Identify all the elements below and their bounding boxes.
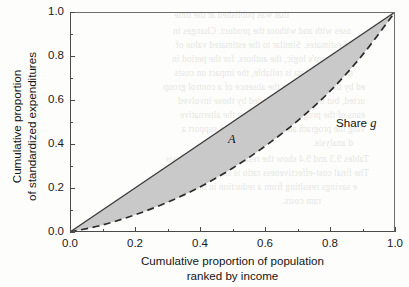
y-tick-major xyxy=(70,100,75,101)
x-tick-label: 0.6 xyxy=(245,237,285,249)
x-tick-minor xyxy=(298,229,299,232)
area-label-A: A xyxy=(228,132,236,147)
y-tick-major xyxy=(70,56,75,57)
y-tick-major xyxy=(70,188,75,189)
x-tick-label: 0.2 xyxy=(115,237,155,249)
x-tick-major xyxy=(265,227,266,232)
x-tick-label: 1.0 xyxy=(375,237,409,249)
x-tick-label: 0.8 xyxy=(310,237,350,249)
y-tick-minor xyxy=(70,122,73,123)
x-tick-minor xyxy=(233,229,234,232)
x-axis-title-line1: Cumulative proportion of population xyxy=(70,254,395,269)
share-g-label: Share g xyxy=(336,116,376,131)
y-tick-major xyxy=(70,232,75,233)
y-tick-minor xyxy=(70,34,73,35)
x-tick-minor xyxy=(363,229,364,232)
share-g-label-italic: g xyxy=(370,116,376,130)
y-tick-major xyxy=(70,12,75,13)
y-tick-minor xyxy=(70,210,73,211)
x-tick-minor xyxy=(103,229,104,232)
x-tick-label: 0.4 xyxy=(180,237,220,249)
y-tick-major xyxy=(70,144,75,145)
y-axis-title-line1: Cumulative proportion xyxy=(10,7,25,247)
x-tick-minor xyxy=(168,229,169,232)
x-axis-title: Cumulative proportion of population rank… xyxy=(70,254,395,283)
x-tick-major xyxy=(330,227,331,232)
y-axis-title-line2: of standardized expenditures xyxy=(24,7,39,247)
x-tick-major xyxy=(200,227,201,232)
x-tick-major xyxy=(135,227,136,232)
x-axis-title-line2: ranked by income xyxy=(70,269,395,284)
share-g-label-text: Share xyxy=(336,116,370,129)
y-tick-minor xyxy=(70,78,73,79)
x-tick-major xyxy=(395,227,396,232)
y-axis-title: Cumulative proportion of standardized ex… xyxy=(10,7,39,247)
lorenz-curve-figure: that was published at the time nses with… xyxy=(0,0,409,287)
x-tick-label: 0.0 xyxy=(50,237,90,249)
y-tick-minor xyxy=(70,166,73,167)
